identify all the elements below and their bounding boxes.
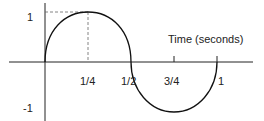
negative-half-curve xyxy=(131,62,217,112)
waveform-diagram xyxy=(0,0,264,121)
x-tick-label-1-4: 1/4 xyxy=(80,76,95,87)
x-tick-label-3-4: 3/4 xyxy=(164,76,179,87)
x-axis-label: Time (seconds) xyxy=(168,34,243,45)
x-tick-label-1: 1 xyxy=(218,76,224,87)
x-tick-label-1-2: 1/2 xyxy=(121,76,136,87)
y-tick-label-1: 1 xyxy=(27,12,33,23)
y-tick-label-neg1: -1 xyxy=(23,103,33,114)
